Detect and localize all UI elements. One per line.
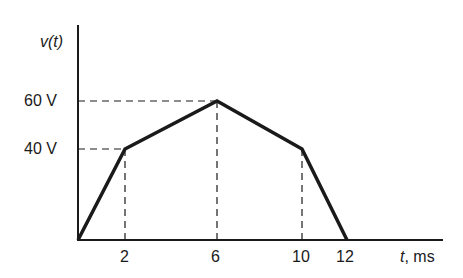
x-tick-6: 6 bbox=[211, 248, 220, 266]
y-tick-40v: 40 V bbox=[24, 140, 57, 158]
x-axis-unit: , ms bbox=[404, 248, 434, 265]
y-tick-60v: 60 V bbox=[24, 92, 57, 110]
x-axis-label: t, ms bbox=[400, 248, 435, 266]
x-tick-2: 2 bbox=[120, 248, 129, 266]
voltage-waveform-chart bbox=[0, 0, 463, 278]
guide-lines bbox=[78, 101, 302, 240]
x-tick-12: 12 bbox=[336, 248, 354, 266]
y-axis-label: v(t) bbox=[40, 33, 63, 51]
waveform-line bbox=[78, 101, 347, 240]
x-tick-10: 10 bbox=[292, 248, 310, 266]
